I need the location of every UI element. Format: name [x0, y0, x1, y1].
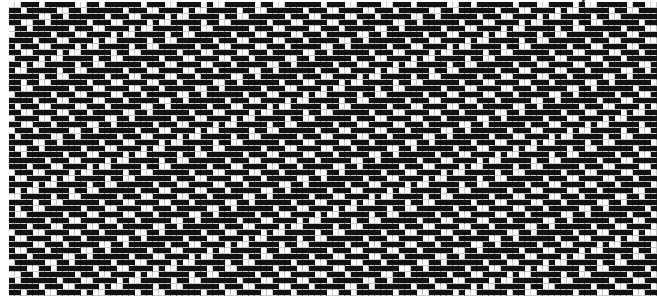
weave-pattern-grid	[9, 2, 657, 296]
pattern-cell	[651, 290, 657, 296]
pattern-row	[9, 290, 657, 296]
